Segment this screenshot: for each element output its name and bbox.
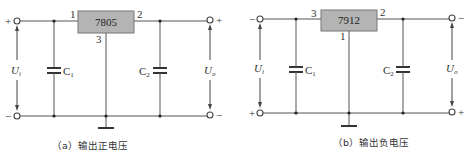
capacitor-c1-label: C1 bbox=[63, 65, 74, 79]
output-top-polarity: − bbox=[458, 12, 464, 24]
regulator-label: 7912 bbox=[338, 14, 360, 26]
arrow-down-icon bbox=[208, 104, 212, 110]
output-terminal-top bbox=[449, 15, 455, 21]
junction-dot bbox=[52, 114, 55, 117]
output-bottom-polarity: − bbox=[216, 109, 222, 121]
capacitor-c2-label: C2 bbox=[139, 65, 150, 79]
junction-dot bbox=[158, 114, 161, 117]
capacitor-c1-label: C1 bbox=[305, 64, 316, 78]
junction-dot bbox=[401, 17, 404, 20]
input-bottom-polarity: + bbox=[249, 107, 255, 119]
junction-dot bbox=[158, 19, 161, 22]
caption-a: （a）输出正电压 bbox=[52, 140, 128, 151]
circuit-diagrams: 7805 1 2 3 C1 C2 + − + − bbox=[0, 0, 469, 155]
pin-input-label: 3 bbox=[311, 7, 317, 19]
input-terminal-bottom bbox=[257, 110, 263, 116]
pin-ground-label: 1 bbox=[340, 30, 346, 42]
pin-output-label: 2 bbox=[380, 6, 386, 18]
circuit-a-positive-regulator: 7805 1 2 3 C1 C2 + − + − bbox=[5, 8, 222, 151]
arrow-down-icon bbox=[15, 105, 19, 111]
circuit-b-negative-regulator: 7912 3 2 1 C1 C2 − + − + bbox=[249, 6, 464, 148]
caption-b: （b）输出负电压 bbox=[333, 137, 409, 148]
output-terminal-bottom bbox=[207, 112, 213, 118]
arrow-up-icon bbox=[15, 25, 19, 31]
input-top-polarity: + bbox=[5, 15, 11, 27]
junction-dot bbox=[294, 17, 297, 20]
input-voltage-label: Ui bbox=[254, 62, 264, 76]
output-voltage-label: Uo bbox=[446, 62, 458, 76]
pin-input-label: 1 bbox=[70, 8, 76, 20]
output-terminal-bottom bbox=[449, 109, 455, 115]
pin-ground-label: 3 bbox=[96, 33, 102, 45]
output-bottom-polarity: + bbox=[458, 106, 464, 118]
junction-dot bbox=[294, 111, 297, 114]
input-voltage-label: Ui bbox=[11, 64, 21, 78]
capacitor-c2-label: C2 bbox=[383, 64, 394, 78]
junction-dot bbox=[347, 111, 350, 114]
junction-dot bbox=[52, 19, 55, 22]
arrow-up-icon bbox=[208, 24, 212, 30]
arrow-up-icon bbox=[450, 22, 454, 28]
output-top-polarity: + bbox=[216, 14, 222, 26]
pin-output-label: 2 bbox=[137, 8, 143, 20]
junction-dot bbox=[401, 111, 404, 114]
junction-dot bbox=[104, 114, 107, 117]
input-terminal-top bbox=[14, 18, 20, 24]
output-terminal-top bbox=[207, 17, 213, 23]
arrow-up-icon bbox=[258, 23, 262, 29]
arrow-down-icon bbox=[258, 102, 262, 108]
input-bottom-polarity: − bbox=[5, 110, 11, 122]
arrow-down-icon bbox=[450, 101, 454, 107]
regulator-label: 7805 bbox=[95, 16, 118, 28]
input-terminal-top bbox=[257, 16, 263, 22]
input-top-polarity: − bbox=[249, 13, 255, 25]
output-voltage-label: Uo bbox=[204, 64, 216, 78]
input-terminal-bottom bbox=[14, 113, 20, 119]
